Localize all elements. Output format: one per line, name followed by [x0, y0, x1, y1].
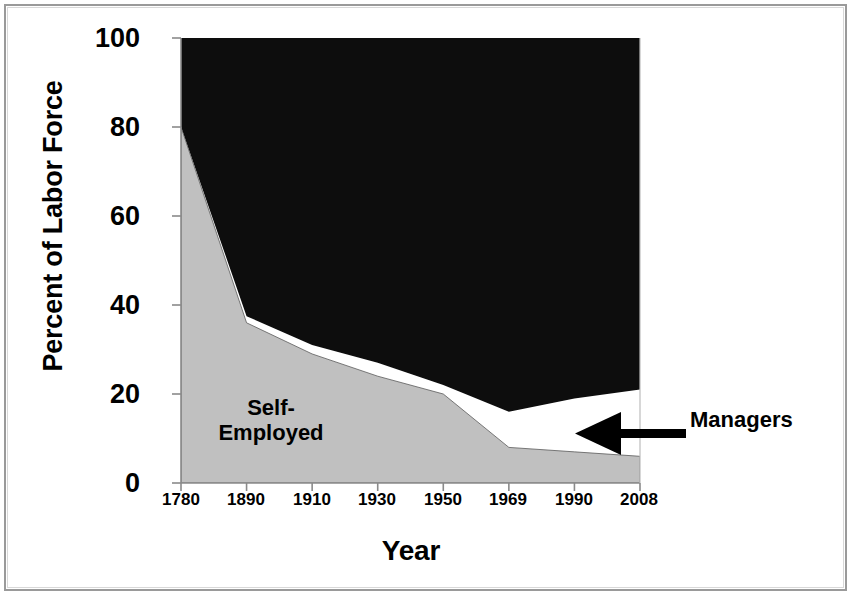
- series-label-managers: Managers: [690, 408, 850, 433]
- y-tick-label-20: 20: [60, 379, 140, 410]
- series-label-self-employed-line2: Employed: [196, 421, 346, 446]
- x-tick-label-1930: 1930: [342, 490, 412, 510]
- y-tick-label-0: 0: [60, 468, 140, 499]
- x-tick-label-2008: 2008: [604, 490, 674, 510]
- series-label-self-employed: Self- Employed: [196, 396, 346, 445]
- x-tick-label-1969: 1969: [473, 490, 543, 510]
- y-tick-label-100: 100: [60, 23, 140, 54]
- x-tick-label-1890: 1890: [211, 490, 281, 510]
- y-tick-marks: [172, 38, 181, 483]
- y-tick-label-60: 60: [60, 201, 140, 232]
- y-tick-label-80: 80: [60, 112, 140, 143]
- x-tick-label-1910: 1910: [277, 490, 347, 510]
- x-axis-title: Year: [181, 535, 641, 567]
- y-tick-label-40: 40: [60, 290, 140, 321]
- chart-figure: Percent of Labor Force Year 100 80 60 40…: [0, 0, 851, 595]
- series-label-self-employed-line1: Self-: [196, 396, 346, 421]
- x-tick-label-1950: 1950: [408, 490, 478, 510]
- x-tick-label-1780: 1780: [146, 490, 216, 510]
- x-tick-label-1990: 1990: [539, 490, 609, 510]
